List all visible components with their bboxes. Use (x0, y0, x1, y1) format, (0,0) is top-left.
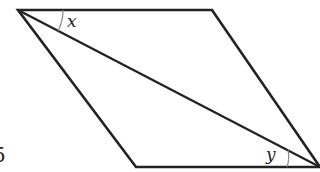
angle-label-x: x (67, 11, 77, 31)
angle-arc-y (287, 150, 289, 167)
parallelogram-diagram: x y 5 (0, 0, 320, 172)
angle-arc-x (58, 10, 63, 31)
figure-number: 5 (0, 143, 6, 167)
angle-label-y: y (265, 144, 276, 164)
